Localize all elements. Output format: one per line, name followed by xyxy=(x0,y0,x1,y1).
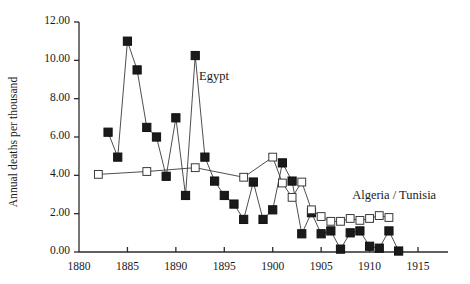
data-point-filled-square xyxy=(133,66,141,74)
data-point-open-square xyxy=(346,215,354,223)
data-point-open-square xyxy=(366,215,374,223)
data-point-filled-square xyxy=(201,153,209,161)
data-point-open-square xyxy=(356,216,364,224)
data-point-filled-square xyxy=(395,247,403,255)
data-point-open-square xyxy=(337,217,345,225)
data-point-filled-square xyxy=(152,133,160,141)
data-point-filled-square xyxy=(317,230,325,238)
data-point-filled-square xyxy=(259,215,267,223)
data-point-filled-square xyxy=(278,159,286,167)
data-point-filled-square xyxy=(114,153,122,161)
x-axis-tick-label: 1900 xyxy=(248,260,298,272)
data-point-filled-square xyxy=(298,230,306,238)
y-axis-tick-label: 4.00 xyxy=(50,167,70,179)
data-point-filled-square xyxy=(211,177,219,185)
data-point-filled-square xyxy=(220,191,228,199)
data-point-open-square xyxy=(298,178,306,186)
data-point-filled-square xyxy=(249,178,257,186)
y-axis-tick-label: 6.00 xyxy=(50,129,70,141)
data-point-open-square xyxy=(94,170,102,178)
x-axis-tick-label: 1890 xyxy=(151,260,201,272)
data-point-filled-square xyxy=(162,172,170,180)
data-point-filled-square xyxy=(104,128,112,136)
data-point-filled-square xyxy=(385,227,393,235)
data-point-filled-square xyxy=(356,227,364,235)
data-point-open-square xyxy=(327,217,335,225)
y-axis-tick-label: 10.00 xyxy=(44,52,70,64)
data-point-open-square xyxy=(375,212,383,220)
data-point-filled-square xyxy=(181,191,189,199)
data-point-filled-square xyxy=(191,51,199,59)
data-point-filled-square xyxy=(327,227,335,235)
chart-container: Annual deaths per thousand 0.002.004.006… xyxy=(0,0,470,284)
y-axis-tick-label: 12.00 xyxy=(44,14,70,26)
series-label-egypt: Egypt xyxy=(199,69,229,84)
x-axis-tick-label: 1895 xyxy=(199,260,249,272)
chart-plot-area xyxy=(0,0,470,284)
data-point-filled-square xyxy=(375,244,383,252)
data-point-open-square xyxy=(279,179,287,187)
x-axis-tick-label: 1880 xyxy=(54,260,104,272)
y-axis-tick-label: 0.00 xyxy=(50,244,70,256)
data-point-filled-square xyxy=(240,215,248,223)
x-axis-tick-label: 1885 xyxy=(102,260,152,272)
data-point-open-square xyxy=(288,193,296,201)
data-point-open-square xyxy=(385,214,393,222)
series-markers-algeria-tunisia xyxy=(94,153,392,225)
data-point-filled-square xyxy=(230,200,238,208)
data-point-filled-square xyxy=(172,114,180,122)
data-point-open-square xyxy=(317,213,325,221)
data-point-filled-square xyxy=(288,177,296,185)
data-point-filled-square xyxy=(346,229,354,237)
data-point-open-square xyxy=(308,206,316,214)
data-point-filled-square xyxy=(365,242,373,250)
data-point-open-square xyxy=(240,173,248,181)
x-axis-tick-label: 1910 xyxy=(345,260,395,272)
data-point-open-square xyxy=(269,153,277,161)
data-point-filled-square xyxy=(336,245,344,253)
series-label-algeria-tunisia: Algeria / Tunisia xyxy=(352,188,436,203)
data-point-open-square xyxy=(143,168,151,176)
x-axis-tick-label: 1905 xyxy=(296,260,346,272)
x-axis-tick-label: 1915 xyxy=(393,260,443,272)
series-line-algeria-tunisia xyxy=(98,157,389,221)
data-point-open-square xyxy=(191,164,199,172)
data-point-filled-square xyxy=(269,206,277,214)
y-axis-tick-label: 2.00 xyxy=(50,206,70,218)
data-point-filled-square xyxy=(143,123,151,131)
y-axis-tick-label: 8.00 xyxy=(50,91,70,103)
data-point-filled-square xyxy=(123,37,131,45)
